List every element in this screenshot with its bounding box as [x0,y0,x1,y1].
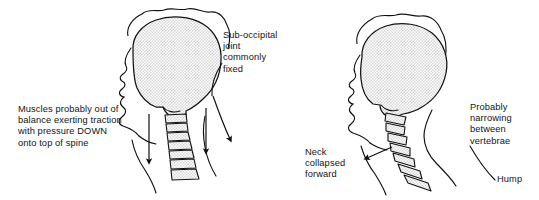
left-vertebral-column [165,114,199,180]
vertebra [169,150,194,159]
right-vertebral-column [385,113,431,191]
label-neck-collapsed-forward: Neck collapsed forward [305,147,365,181]
neck-collapsed-pointer [367,147,392,158]
right-hump-contour [424,110,456,186]
suboccipital-pointer [213,96,230,139]
vertebra [171,169,199,180]
left-figure-group [119,9,230,193]
left-jaw-neck-front [139,136,156,144]
vertebra [170,159,196,169]
right-jaw-neck-front [370,143,387,150]
left-back-shoulder [204,116,217,176]
vertebra [393,153,415,167]
left-skull [133,17,221,119]
right-skull [361,24,447,117]
vertebra [167,132,190,141]
label-muscles-out-of-balance: Muscles probably out of balance exerting… [18,104,122,149]
hump-leader [470,146,495,180]
label-narrowing-between-vertebrae: Probably narrowing between vertebrae [470,102,538,147]
vertebra [166,123,188,132]
anatomical-diagram: Muscles probably out of balance exerting… [0,0,539,200]
vertebra [168,141,192,150]
left-front-shoulder [132,140,156,193]
vertebra [165,114,187,123]
label-suboccipital-joint: Sub-occipital joint commonly fixed [223,30,279,75]
label-hump: Hump [497,174,539,185]
